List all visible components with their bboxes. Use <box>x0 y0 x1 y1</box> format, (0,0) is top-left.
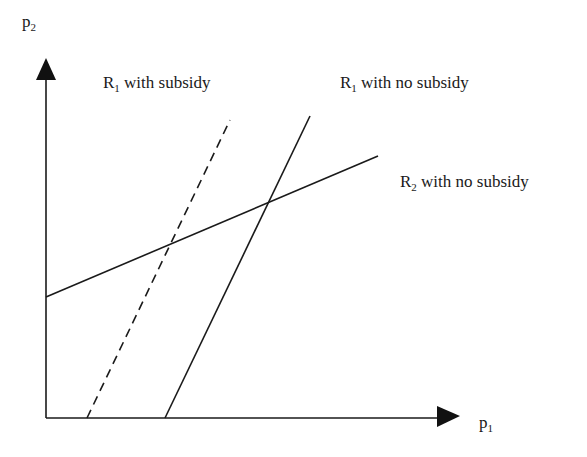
x-axis-arrow-icon <box>437 406 460 427</box>
r1-no-subsidy-line <box>165 116 310 418</box>
r2-no-subsidy-line <box>46 156 378 297</box>
y-axis-label: p2 <box>22 12 36 33</box>
r1-subsidy-line <box>87 120 230 418</box>
r1-no-subsidy-label: R1 with no subsidy <box>340 73 469 94</box>
x-axis-label: p1 <box>479 413 493 434</box>
r2-no-subsidy-label: R2 with no subsidy <box>400 172 529 193</box>
r1-subsidy-label: R1 with subsidy <box>103 73 211 94</box>
reaction-function-diagram: p2 p1 R1 with subsidy R1 with no subsidy… <box>0 0 587 457</box>
y-axis-arrow-icon <box>36 58 56 80</box>
